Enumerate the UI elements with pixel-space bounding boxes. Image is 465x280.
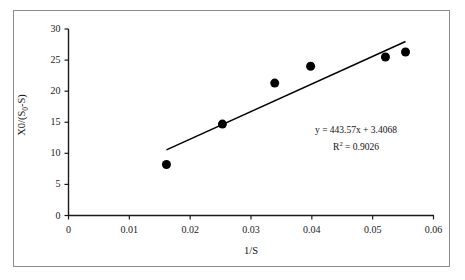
y-axis-title-suffix: -S): [16, 94, 27, 107]
data-point: [401, 48, 410, 57]
x-axis-tick-label: 0.05: [353, 225, 393, 235]
y-axis-tick-label: 20: [35, 86, 61, 96]
data-point: [218, 120, 227, 129]
y-axis-title: X0/(S0-S): [16, 70, 30, 160]
x-axis-tick-label: 0.02: [170, 225, 210, 235]
trendline-equation: y = 443.57x + 3.4068: [288, 124, 424, 137]
x-axis-tick-label: 0.06: [414, 225, 454, 235]
axis-lines: [68, 29, 434, 216]
y-axis-tick-label: 30: [35, 24, 61, 34]
trendline-annotation: y = 443.57x + 3.4068 R2 = 0.9026: [288, 124, 424, 154]
trendline-r-squared: R2 = 0.9026: [288, 137, 424, 154]
y-axis-tick-label: 0: [35, 211, 61, 221]
y-axis-tick-label: 10: [35, 148, 61, 158]
y-axis-tick-label: 25: [35, 55, 61, 65]
x-axis-tick-label: 0: [49, 225, 89, 235]
r-squared-value: = 0.9026: [343, 142, 379, 152]
x-axis-tick-label: 0.04: [292, 225, 332, 235]
x-axis-tick-label: 0.01: [109, 225, 149, 235]
data-point: [381, 52, 390, 61]
y-axis-title-subscript: 0: [21, 107, 30, 111]
data-point: [162, 160, 171, 169]
x-axis-tick-label: 0.03: [231, 225, 271, 235]
data-point: [306, 62, 315, 71]
y-axis-tick-label: 5: [35, 179, 61, 189]
chart-figure: 051015202530 00.010.020.030.040.050.06 X…: [0, 0, 465, 280]
y-axis-title-prefix: X0/(S: [16, 111, 27, 136]
data-point: [270, 79, 279, 88]
y-axis-tick-label: 15: [35, 117, 61, 127]
x-axis-title: 1/S: [68, 245, 434, 256]
